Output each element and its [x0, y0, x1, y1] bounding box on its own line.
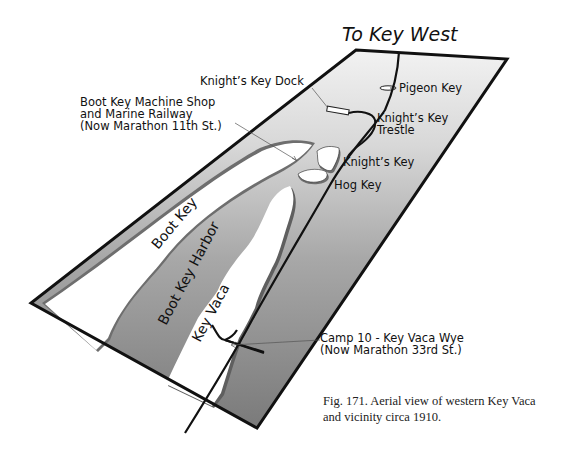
label-machine-shop-3: (Now Marathon 11th St.): [80, 119, 222, 133]
label-hog-key: Hog Key: [334, 178, 382, 192]
label-knights-key: Knight’s Key: [343, 155, 414, 169]
caption-line-2: and vicinity circa 1910.: [323, 409, 561, 425]
figure-caption: Fig. 171. Aerial view of western Key Vac…: [323, 393, 561, 425]
label-knights-key-trestle-2: Trestle: [376, 123, 415, 137]
caption-line-1: Fig. 171. Aerial view of western Key Vac…: [323, 393, 561, 409]
label-camp10-2: (Now Marathon 33rd St.): [320, 343, 462, 357]
aerial-map: To Key West Knight’s Key Dock Pigeon Key…: [0, 0, 561, 451]
label-knights-key-dock: Knight’s Key Dock: [200, 74, 304, 88]
title-to-key-west: To Key West: [342, 23, 459, 45]
label-pigeon-key: Pigeon Key: [399, 81, 462, 95]
